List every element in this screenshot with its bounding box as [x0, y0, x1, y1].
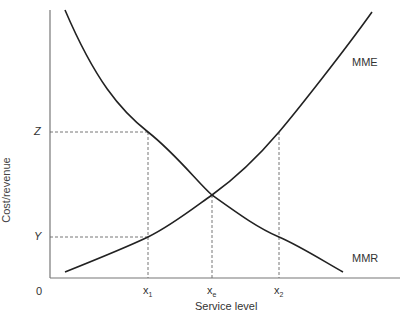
xe-text: x	[207, 284, 213, 296]
x2-tick-label: x2	[274, 284, 283, 296]
mmr-label: MMR	[352, 252, 378, 264]
x1-text: x	[143, 284, 149, 296]
chart-canvas	[0, 0, 406, 322]
x2-subscript: 2	[280, 291, 284, 298]
x1-subscript: 1	[149, 291, 153, 298]
z-tick-label: Z	[34, 125, 41, 137]
x2-text: x	[274, 284, 280, 296]
mme-label: MME	[352, 56, 378, 68]
mme-curve	[65, 12, 372, 272]
x-axis-label: Service level	[195, 300, 257, 312]
x1-tick-label: x1	[143, 284, 152, 296]
y-tick-label: Y	[34, 230, 41, 242]
origin-label: 0	[36, 285, 42, 297]
xe-subscript: e	[213, 291, 217, 298]
y-axis-label: Cost/revenue	[0, 157, 12, 222]
xe-tick-label: xe	[207, 284, 216, 296]
mmr-curve	[65, 10, 343, 272]
